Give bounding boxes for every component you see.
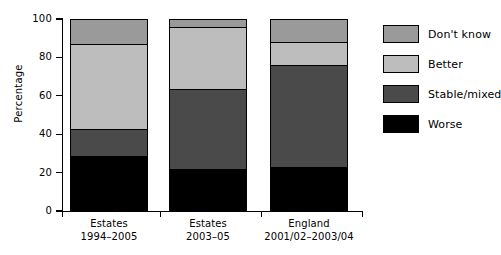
category-label-line1: England	[288, 218, 329, 229]
legend-item: Better	[383, 49, 501, 79]
bar-group	[70, 19, 148, 211]
y-tick-100	[56, 18, 63, 19]
y-tick-20	[56, 172, 63, 173]
category-label-line1: Estates	[189, 218, 227, 229]
legend: Don't knowBetterStable/mixedWorse	[383, 19, 501, 139]
bar-segment	[170, 90, 246, 170]
y-tick-60	[56, 95, 63, 96]
x-axis-separator-1	[160, 211, 161, 217]
y-tick-label-0: 0	[18, 205, 52, 216]
legend-label: Worse	[428, 118, 462, 131]
legend-swatch	[383, 115, 419, 133]
y-tick-40	[56, 134, 63, 135]
x-axis-separator-2	[261, 211, 262, 217]
bar-segment	[271, 43, 347, 66]
category-label-line2: 2001/02–2003/04	[244, 231, 374, 244]
y-tick-label-60: 60	[18, 90, 52, 101]
x-axis-end-cap-right	[362, 211, 363, 217]
bar-group	[169, 19, 247, 211]
y-tick-label-80: 80	[18, 51, 52, 62]
bar-segment	[170, 170, 246, 210]
y-axis-line	[62, 19, 63, 211]
legend-label: Stable/mixed	[428, 88, 501, 101]
bar-stack	[270, 19, 348, 211]
bar-stack	[70, 19, 148, 211]
y-tick-label-40: 40	[18, 128, 52, 139]
bar-segment	[71, 157, 147, 210]
bar-segment	[71, 130, 147, 157]
category-label-3: England2001/02–2003/04	[244, 218, 374, 243]
legend-item: Don't know	[383, 19, 501, 49]
category-label-line1: Estates	[90, 218, 128, 229]
bar-stack	[169, 19, 247, 211]
y-tick-80	[56, 57, 63, 58]
x-axis-line	[62, 211, 363, 212]
bar-segment	[170, 28, 246, 91]
bar-segment	[271, 20, 347, 43]
legend-swatch	[383, 55, 419, 73]
bar-segment	[271, 66, 347, 169]
bar-segment	[271, 168, 347, 210]
legend-swatch	[383, 85, 419, 103]
x-axis-end-cap-left	[62, 211, 63, 217]
y-tick-label-20: 20	[18, 167, 52, 178]
legend-item: Worse	[383, 109, 501, 139]
y-tick-label-100: 100	[18, 13, 52, 24]
bar-segment	[71, 45, 147, 131]
legend-label: Better	[428, 58, 463, 71]
bar-segment	[170, 20, 246, 28]
bar-group	[270, 19, 348, 211]
legend-label: Don't know	[428, 28, 491, 41]
legend-item: Stable/mixed	[383, 79, 501, 109]
bar-segment	[71, 20, 147, 45]
legend-swatch	[383, 25, 419, 43]
